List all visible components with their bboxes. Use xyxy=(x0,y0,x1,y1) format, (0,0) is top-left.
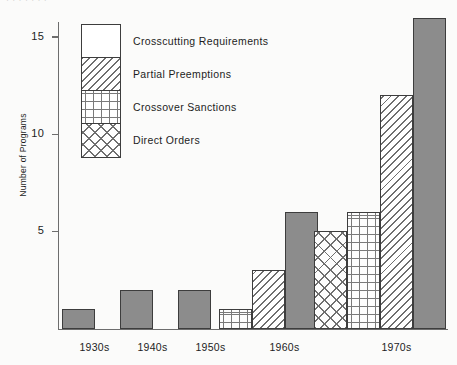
y-axis-tick-label-5: 5 xyxy=(16,224,44,236)
x-axis-label-1930s: 1930s xyxy=(79,341,109,353)
bar xyxy=(252,270,285,328)
legend-swatch-stack xyxy=(81,24,121,158)
bar xyxy=(380,95,413,328)
bar xyxy=(178,290,211,329)
y-axis-tick-label-15: 15 xyxy=(16,30,44,42)
bar xyxy=(347,212,380,329)
bar xyxy=(219,309,252,328)
legend-swatch-diagonal-hatch xyxy=(82,58,120,91)
legend-label: Partial Preemptions xyxy=(133,68,231,80)
bar xyxy=(413,18,446,329)
bar xyxy=(314,231,347,328)
bar-chart-figure: · · · · · · · 51015 Number of Programs 1… xyxy=(0,0,457,365)
legend-label: Direct Orders xyxy=(133,134,200,146)
bar xyxy=(62,309,95,328)
legend-swatch-diamond-lattice xyxy=(82,124,120,157)
legend-swatch-plus-grid xyxy=(82,91,120,124)
legend-label: Crossover Sanctions xyxy=(133,101,237,113)
legend-label: Crosscutting Requirements xyxy=(133,35,268,47)
x-axis-label-1950s: 1950s xyxy=(195,341,225,353)
x-axis-label-1960s: 1960s xyxy=(269,341,299,353)
legend-swatch-solid-gray xyxy=(82,25,120,58)
y-axis-title: Number of Programs xyxy=(18,100,28,210)
x-axis-label-1970s: 1970s xyxy=(381,341,411,353)
bar xyxy=(120,290,153,329)
x-axis-label-1940s: 1940s xyxy=(137,341,167,353)
cut-off-title-text: · · · · · · · xyxy=(6,0,47,5)
